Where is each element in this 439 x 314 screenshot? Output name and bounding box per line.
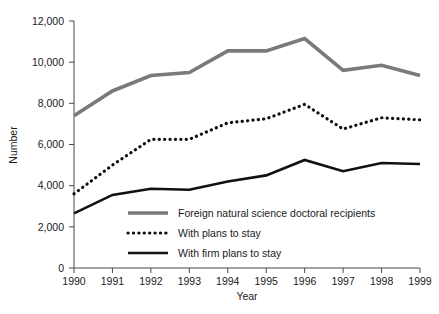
y-tick-label: 10,000 [32,56,64,68]
y-axis-title: Number [7,126,19,164]
y-axis-tick-labels: 02,0004,0006,0008,00010,00012,000 [32,15,64,274]
x-tick-label: 1999 [408,275,432,287]
y-tick-label: 2,000 [38,221,64,233]
data-series-group [74,39,420,214]
y-tick-label: 4,000 [38,179,64,191]
y-tick-label: 8,000 [38,97,64,109]
series-line-1 [74,104,420,194]
x-axis-ticks [74,268,420,273]
x-tick-label: 1992 [139,275,163,287]
x-tick-label: 1991 [101,275,125,287]
y-tick-label: 0 [58,262,64,274]
legend-label-1: With plans to stay [178,227,262,239]
line-chart-figure: 02,0004,0006,0008,00010,00012,000 Number… [0,0,439,314]
chart-legend: Foreign natural science doctoral recipie… [128,207,375,259]
legend-label-0: Foreign natural science doctoral recipie… [178,207,375,219]
x-tick-label: 1993 [178,275,202,287]
x-axis-title: Year [236,290,258,302]
y-axis-ticks [69,21,74,268]
chart-canvas: 02,0004,0006,0008,00010,00012,000 Number… [0,0,439,314]
y-axis: 02,0004,0006,0008,00010,00012,000 Number [7,15,74,274]
x-axis: 1990199119921993199419951996199719981999… [62,268,432,302]
x-tick-label: 1998 [370,275,394,287]
legend-label-2: With firm plans to stay [178,247,282,259]
x-tick-label: 1995 [255,275,279,287]
series-line-2 [74,160,420,214]
x-tick-label: 1997 [331,275,355,287]
series-line-0 [74,39,420,116]
x-tick-label: 1996 [293,275,317,287]
x-axis-tick-labels: 1990199119921993199419951996199719981999 [62,275,432,287]
x-tick-label: 1990 [62,275,86,287]
x-tick-label: 1994 [216,275,240,287]
y-tick-label: 12,000 [32,15,64,27]
y-tick-label: 6,000 [38,138,64,150]
